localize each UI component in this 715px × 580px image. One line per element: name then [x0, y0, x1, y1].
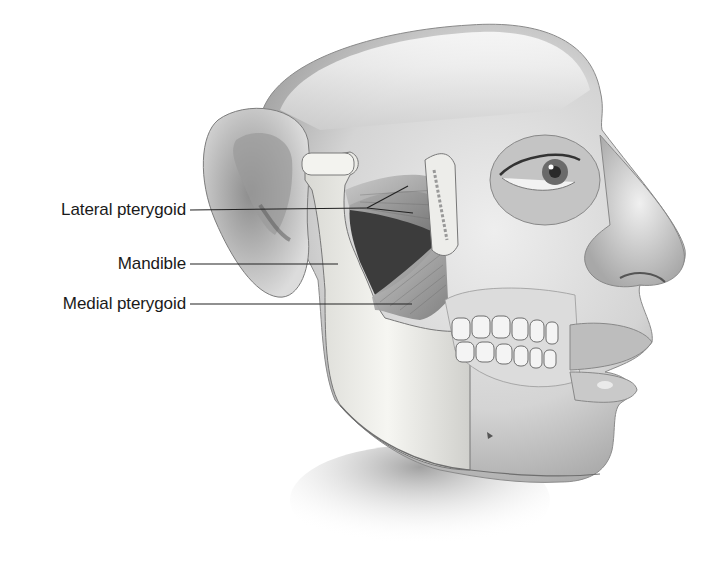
ear — [203, 108, 309, 297]
label-mandible: Mandible — [118, 255, 186, 272]
label-lateral-pterygoid: Lateral pterygoid — [61, 201, 186, 218]
lips — [570, 323, 652, 402]
anatomy-figure: Lateral pterygoid Mandible Medial pteryg… — [0, 0, 715, 580]
head-illustration — [0, 0, 715, 580]
label-medial-pterygoid: Medial pterygoid — [63, 295, 186, 312]
orbit — [490, 135, 600, 225]
